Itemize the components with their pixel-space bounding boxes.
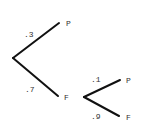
prob-label-1-p: .3 [24,30,34,39]
probability-tree: .3 P .7 F .1 P .9 F [0,0,141,125]
prob-label-2-p: .1 [91,75,101,84]
branch-2-p [84,80,120,97]
outcome-label-2-p: P [126,76,131,85]
outcome-label-1-f: F [64,93,69,102]
branch-1-p [13,23,59,58]
prob-label-2-f: .9 [91,112,101,121]
branch-2-f [84,97,119,116]
outcome-label-1-p: P [66,19,71,28]
outcome-label-2-f: F [126,113,131,122]
prob-label-1-f: .7 [25,85,35,94]
branch-1-f [13,58,58,96]
